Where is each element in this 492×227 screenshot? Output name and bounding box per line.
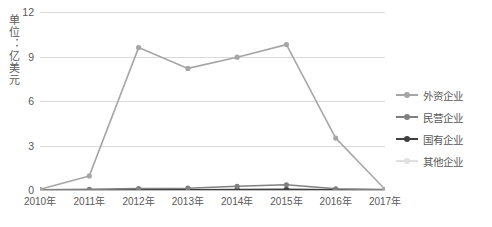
x-tick-label: 2014年: [221, 193, 253, 208]
x-tick-label: 2013年: [172, 193, 204, 208]
series-point: [185, 186, 190, 190]
series-point: [87, 187, 92, 190]
series-point: [40, 187, 43, 190]
series-point: [284, 42, 289, 47]
legend-item[interactable]: 外资企业: [396, 86, 488, 104]
line-chart: 单位：亿美元 036912 2010年2011年2012年2013年2014年2…: [0, 0, 492, 227]
series-point: [136, 45, 141, 50]
series-point: [136, 186, 141, 190]
series-point: [333, 186, 338, 190]
legend-item[interactable]: 国有企业: [396, 130, 488, 148]
legend-marker: [404, 92, 410, 98]
series-point: [333, 136, 338, 141]
legend-swatch: [396, 134, 418, 144]
y-tick-label: 9: [0, 51, 34, 63]
legend: 外资企业民营企业国有企业其他企业: [396, 86, 488, 174]
series-point: [185, 66, 190, 71]
x-tick-label: 2010年: [24, 193, 56, 208]
y-tick-label: 12: [0, 6, 34, 18]
x-tick-label: 2012年: [122, 193, 154, 208]
legend-swatch: [396, 112, 418, 122]
x-tick-label: 2016年: [320, 193, 352, 208]
legend-marker: [404, 136, 410, 142]
series-point: [87, 173, 92, 178]
y-tick-label: 3: [0, 140, 34, 152]
legend-item[interactable]: 民营企业: [396, 108, 488, 126]
series-point: [235, 55, 240, 60]
legend-label: 外资企业: [423, 88, 463, 103]
legend-item[interactable]: 其他企业: [396, 152, 488, 170]
legend-label: 民营企业: [423, 110, 463, 125]
x-tick-label: 2011年: [74, 193, 106, 208]
x-tick-label: 2015年: [270, 193, 302, 208]
legend-label: 其他企业: [423, 154, 463, 169]
x-tick-label: 2017年: [369, 193, 401, 208]
series-point: [235, 184, 240, 189]
legend-marker: [404, 158, 410, 164]
x-axis-ticks: 2010年2011年2012年2013年2014年2015年2016年2017年: [40, 193, 385, 211]
legend-swatch: [396, 90, 418, 100]
legend-swatch: [396, 156, 418, 166]
series-layer: [40, 12, 385, 190]
legend-marker: [404, 114, 410, 120]
series-line: [40, 45, 385, 190]
series-point: [284, 182, 289, 187]
y-tick-label: 6: [0, 95, 34, 107]
gridline: [40, 190, 385, 191]
plot-area: [40, 12, 385, 190]
legend-label: 国有企业: [423, 132, 463, 147]
